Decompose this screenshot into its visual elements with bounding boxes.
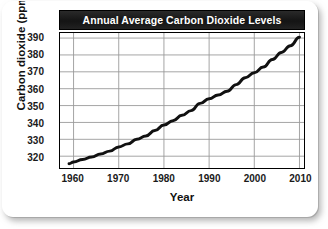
plot-area — [59, 32, 305, 169]
chart-title: Annual Average Carbon Dioxide Levels — [83, 14, 282, 26]
chart-title-banner: Annual Average Carbon Dioxide Levels — [59, 10, 305, 30]
x-axis-tick-label: 1990 — [186, 173, 232, 184]
x-axis-tick-label: 1960 — [50, 173, 96, 184]
y-axis-title: Carbon dioxide (ppm) — [15, 1, 27, 126]
x-axis-tick-label: 1980 — [141, 173, 187, 184]
figure-card: Annual Average Carbon Dioxide Levels 320… — [2, 1, 318, 217]
x-axis-tick-label: 2000 — [232, 173, 278, 184]
x-axis-tick-label: 1970 — [95, 173, 141, 184]
x-axis-title: Year — [59, 191, 305, 203]
co2-trend-line — [69, 37, 299, 164]
co2-line-series — [60, 33, 304, 168]
y-axis-tick-label: 330 — [2, 134, 44, 145]
y-axis-tick-label: 320 — [2, 152, 44, 163]
x-axis-tick-label: 2010 — [277, 173, 318, 184]
